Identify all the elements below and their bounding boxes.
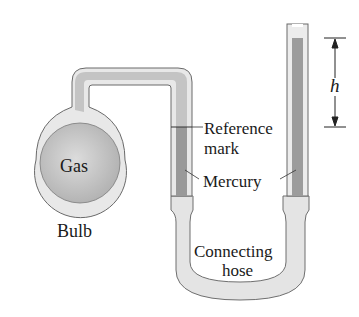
manometer-diagram: Gas Bulb Reference mark Mercury Connecti…	[0, 0, 359, 317]
hose-label: Connecting	[194, 242, 273, 261]
hose-label-line2: hose	[222, 261, 253, 280]
reference-label-line2: mark	[204, 139, 239, 158]
right-open-tube	[287, 24, 308, 196]
gas-label: Gas	[60, 156, 88, 176]
mercury-label: Mercury	[203, 172, 262, 191]
left-mercury-column	[176, 127, 187, 196]
bulb-label: Bulb	[57, 221, 92, 241]
bulb	[35, 68, 193, 218]
right-mercury-column	[292, 38, 303, 196]
height-label: h	[330, 75, 340, 96]
reference-label: Reference	[204, 119, 273, 138]
